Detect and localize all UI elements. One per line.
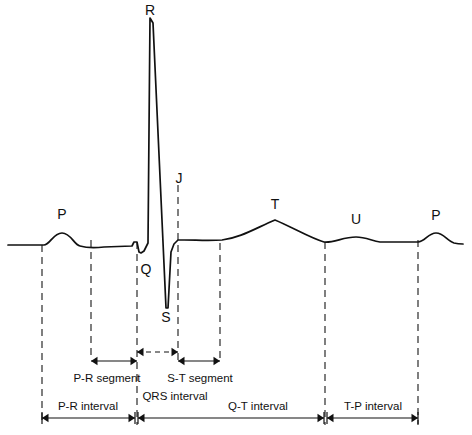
ecg-trace [8,18,463,308]
u-wave-label: U [351,211,361,227]
ecg-figure: PRQSJTUP P-R segmentQRS intervalS-T segm… [0,0,472,435]
q-wave-label: Q [141,261,152,277]
guide-line-group [42,185,418,425]
qrs-interval-arrowhead-right [172,348,179,356]
pr-segment-label: P-R segment [73,372,141,384]
t-wave-label: T [271,196,280,212]
tp-interval-arrowhead-left [327,414,334,422]
qt-interval-label: Q-T interval [228,400,288,412]
r-wave-label: R [145,2,155,18]
p-wave-second-label: P [431,207,440,223]
qt-interval-arrowhead-right [318,414,325,422]
st-segment-arrowhead-right [214,357,221,365]
j-point-label: J [176,170,183,186]
qrs-interval-label: QRS interval [142,390,207,402]
pr-segment-arrowhead-left [91,357,98,365]
pr-interval-arrowhead-right [129,414,136,422]
segment-annotation-group: P-R segmentQRS intervalS-T segment [73,348,233,402]
p-wave-first-label: P [57,206,66,222]
st-segment-label: S-T segment [167,372,233,384]
pr-segment-arrowhead-right [131,357,138,365]
interval-annotation-group: P-R intervalQ-T intervalT-P interval [42,400,418,424]
pr-interval-arrowhead-left [42,414,49,422]
ecg-diagram: PRQSJTUP P-R segmentQRS intervalS-T segm… [0,0,472,435]
tp-interval-label: T-P interval [344,400,402,412]
s-wave-label: S [161,309,170,325]
pr-interval-label: P-R interval [58,400,118,412]
st-segment-arrowhead-left [178,357,185,365]
qrs-interval-arrowhead-left [137,348,144,356]
tp-interval-arrowhead-right [412,414,419,422]
qt-interval-arrowhead-left [138,414,145,422]
wave-label-group: PRQSJTUP [57,2,440,325]
